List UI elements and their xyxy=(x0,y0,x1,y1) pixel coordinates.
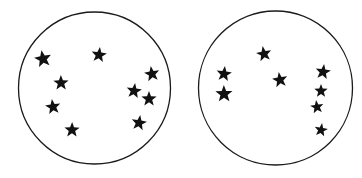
star-icon xyxy=(53,75,68,90)
circle-outline xyxy=(19,12,171,164)
left-circle xyxy=(19,12,171,164)
star-icon xyxy=(314,84,327,97)
star-icon xyxy=(141,91,156,105)
right-circle xyxy=(199,11,353,165)
star-icon xyxy=(126,82,143,98)
diagram-canvas xyxy=(0,0,362,178)
star-icon xyxy=(255,45,273,62)
star-icon xyxy=(33,49,53,68)
star-icon xyxy=(271,71,288,88)
star-icon xyxy=(64,122,79,137)
circle-outline xyxy=(199,11,353,165)
star-icon xyxy=(91,46,108,62)
star-icon xyxy=(216,65,233,81)
star-icon xyxy=(44,98,61,114)
star-icon xyxy=(143,65,160,82)
star-icon xyxy=(215,85,232,102)
star-icon xyxy=(315,63,332,79)
star-icon xyxy=(314,122,329,137)
star-icon xyxy=(130,114,147,131)
star-icon xyxy=(309,99,324,113)
